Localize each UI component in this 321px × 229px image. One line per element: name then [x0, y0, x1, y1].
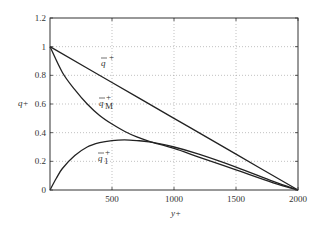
x-tick-label: 1500	[227, 194, 246, 204]
svg-text:1: 1	[104, 156, 109, 166]
y-tick-label: 0.8	[35, 70, 47, 80]
axis-ticks: 50010001500200000.20.40.60.811.2	[35, 13, 308, 204]
x-tick-label: 1000	[165, 194, 184, 204]
y-tick-label: 0	[42, 185, 47, 195]
y-tick-label: 1.2	[35, 13, 46, 23]
y-tick-label: 1	[42, 42, 47, 52]
svg-text:q: q	[98, 153, 103, 163]
y-tick-label: 0.4	[35, 128, 47, 138]
series-line	[50, 140, 298, 190]
curve-labels: q+q+Mq+1	[98, 52, 114, 166]
svg-text:M: M	[105, 101, 113, 111]
y-axis-label: q+	[18, 98, 29, 108]
x-tick-label: 2000	[289, 194, 308, 204]
curve-label: q+	[101, 52, 114, 68]
x-tick-label: 500	[105, 194, 119, 204]
svg-text:q: q	[99, 98, 104, 108]
svg-text:q: q	[101, 58, 106, 68]
x-axis-label: y+	[170, 208, 181, 218]
y-tick-label: 0.6	[35, 99, 47, 109]
y-tick-label: 0.2	[35, 156, 46, 166]
curve-label: q+M	[99, 92, 113, 111]
line-chart: 50010001500200000.20.40.60.811.2 q+q+Mq+…	[0, 0, 321, 229]
svg-text:+: +	[109, 52, 114, 62]
curve-label: q+1	[98, 147, 110, 166]
